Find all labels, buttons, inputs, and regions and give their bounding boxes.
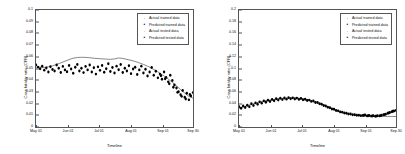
data-point — [146, 75, 148, 78]
data-point — [356, 114, 358, 117]
x-tick-label: Aug 01 — [125, 130, 136, 134]
data-point — [265, 101, 267, 104]
data-point — [140, 65, 142, 68]
dot-filled-icon: • — [343, 23, 352, 28]
data-point — [105, 67, 107, 70]
y-tick-mark — [36, 103, 39, 104]
data-point — [188, 98, 190, 101]
dot-small-icon: · — [343, 30, 352, 35]
legend-label: Predicted trained data — [149, 24, 185, 28]
figure-container: Case fatality ratio (CFR) ·Actual traine… — [0, 0, 405, 154]
legend-label: Predicted tested data — [352, 37, 387, 41]
data-point — [72, 72, 74, 75]
y-tick-label: 0.06 — [26, 55, 33, 59]
legend-left: ·Actual trained data•Predicted trained d… — [137, 13, 189, 45]
data-point — [329, 106, 331, 109]
y-tick-label: 0.18 — [229, 20, 236, 24]
data-point — [53, 70, 55, 73]
data-point — [93, 66, 95, 69]
legend-item[interactable]: •Predicted tested data — [343, 35, 388, 41]
y-tick-mark — [239, 45, 242, 46]
x-tick-label: Jul 01 — [94, 130, 104, 134]
data-point — [86, 68, 88, 71]
data-point — [333, 108, 335, 111]
data-point — [279, 97, 281, 100]
dot-small-icon: · — [343, 17, 352, 22]
data-point — [302, 98, 304, 101]
data-point — [347, 113, 349, 116]
y-tick-label: 0.08 — [229, 78, 236, 82]
x-tick-mark — [271, 125, 272, 128]
dot-small-icon: · — [140, 17, 149, 22]
data-point — [132, 68, 134, 71]
data-point — [36, 64, 37, 67]
series-scatter — [159, 71, 193, 102]
y-tick-mark — [239, 21, 242, 22]
x-tick-mark — [334, 125, 335, 128]
x-tick-label: May 01 — [233, 130, 245, 134]
legend-label: Predicted tested data — [149, 37, 184, 41]
y-tick-label: 0.05 — [26, 67, 33, 71]
data-point — [101, 64, 103, 67]
x-axis-label: Timeline — [35, 144, 194, 148]
data-point — [113, 71, 115, 74]
y-tick-mark — [239, 103, 242, 104]
data-point — [294, 98, 296, 101]
legend-label: Actual tested data — [149, 30, 179, 34]
data-point — [155, 70, 157, 73]
data-point — [99, 69, 101, 72]
data-point — [107, 62, 109, 65]
data-point — [175, 86, 177, 89]
legend-label: Actual tested data — [352, 30, 382, 34]
data-point — [60, 71, 62, 74]
data-point — [285, 98, 287, 101]
data-point — [363, 114, 365, 117]
data-point — [151, 66, 153, 69]
x-tick-mark — [239, 125, 240, 128]
data-point — [360, 114, 362, 117]
data-point — [339, 110, 341, 113]
data-point — [341, 111, 343, 114]
data-point — [354, 113, 356, 116]
data-point — [89, 64, 91, 67]
data-point — [392, 110, 394, 113]
y-tick-mark — [36, 10, 39, 11]
data-point — [160, 74, 162, 77]
data-point — [95, 73, 97, 76]
data-point — [335, 109, 337, 112]
data-point — [343, 112, 345, 115]
data-point — [327, 106, 329, 109]
data-point — [256, 103, 258, 106]
data-point — [126, 70, 128, 73]
data-point — [163, 71, 165, 74]
data-point — [91, 71, 93, 74]
data-point — [308, 99, 310, 102]
data-point — [267, 99, 269, 102]
x-tick-label: Jun 01 — [266, 130, 277, 134]
data-point — [84, 65, 86, 68]
data-point — [109, 70, 111, 73]
data-point — [97, 65, 99, 68]
y-tick-mark — [36, 68, 39, 69]
y-tick-mark — [239, 80, 242, 81]
data-point — [117, 68, 119, 71]
data-point — [169, 74, 171, 77]
series-line — [239, 98, 396, 117]
data-point — [331, 108, 333, 111]
legend-right: ·Actual trained data•Predicted trained d… — [340, 13, 392, 45]
data-point — [45, 66, 47, 69]
data-point — [320, 103, 322, 106]
data-point — [383, 113, 385, 116]
x-tick-label: Jun 01 — [63, 130, 74, 134]
data-point — [134, 66, 136, 69]
data-point — [186, 92, 188, 95]
data-point — [289, 97, 291, 100]
y-tick-label: 0.2 — [231, 8, 236, 12]
legend-item[interactable]: •Predicted tested data — [140, 35, 185, 41]
data-point — [371, 115, 373, 118]
data-point — [148, 71, 150, 74]
data-point — [351, 113, 353, 116]
data-point — [292, 96, 294, 99]
x-axis-label: Timeline — [238, 144, 397, 148]
y-tick-label: 0.02 — [26, 102, 33, 106]
